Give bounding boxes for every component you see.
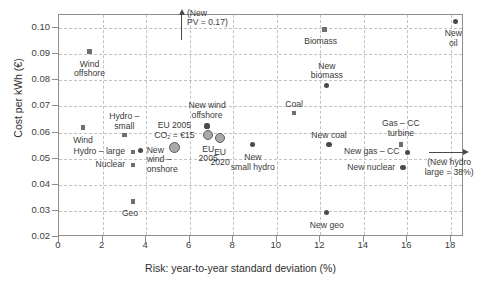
x-axis-title: Risk: year-to-year standard deviation (%… <box>0 262 481 274</box>
gridline-vertical <box>233 15 234 235</box>
data-point-label: Geo <box>85 209 175 219</box>
y-tick-label: 0.03 <box>10 205 50 215</box>
data-point-label: New biomass <box>282 62 372 81</box>
annotation-text: (New hydro large = 38%) <box>411 158 481 177</box>
y-axis-title: Cost per kWh (€) <box>12 18 24 178</box>
x-tick-label: 10 <box>256 240 296 250</box>
data-point <box>138 148 143 153</box>
y-tick-mark <box>52 53 58 54</box>
data-point <box>203 130 213 140</box>
data-point <box>399 142 404 147</box>
annotation-text: (New PV = 0.17) <box>187 9 228 28</box>
y-tick-mark <box>52 79 58 80</box>
data-point-label: Nuclear <box>95 160 125 170</box>
data-point-label: New oil <box>408 29 481 48</box>
data-point <box>131 150 136 155</box>
data-point-label: New wind offshore <box>162 101 252 120</box>
y-tick-mark <box>52 105 58 106</box>
y-tick-label: 0.04 <box>10 179 50 189</box>
gridline-horizontal <box>59 80 462 81</box>
data-point <box>122 133 127 138</box>
data-point-label: New gas – CC <box>344 147 399 157</box>
x-tick-label: 12 <box>299 240 339 250</box>
x-tick-label: 2 <box>82 240 122 250</box>
data-point <box>400 165 405 170</box>
y-tick-mark <box>52 236 58 237</box>
gridline-horizontal <box>59 28 462 29</box>
y-tick-label: 0.02 <box>10 231 50 241</box>
y-tick-mark <box>52 27 58 28</box>
data-point-label: New coal <box>284 131 374 141</box>
gridline-horizontal <box>59 54 462 55</box>
y-tick-mark <box>52 210 58 211</box>
x-tick-label: 16 <box>386 240 426 250</box>
data-point-label: EU 2020 <box>175 148 265 167</box>
gridline-vertical <box>277 15 278 235</box>
plot-area: Wind offshoreWindHydro – smallHydro – la… <box>58 14 463 236</box>
x-tick-label: 8 <box>212 240 252 250</box>
annotation-arrow-right-icon <box>429 152 463 153</box>
data-point <box>87 49 92 54</box>
gridline-vertical <box>320 15 321 235</box>
data-point <box>453 19 458 24</box>
y-tick-mark <box>52 132 58 133</box>
data-point-label: Wind offshore <box>44 60 134 79</box>
data-point <box>215 133 225 143</box>
data-point-label: Hydro – large <box>73 147 125 157</box>
y-tick-mark <box>52 184 58 185</box>
data-point-label: Wind <box>38 136 128 146</box>
data-point <box>324 210 329 215</box>
data-point-label: Coal <box>249 100 339 110</box>
data-point-label: Biomass <box>276 37 366 47</box>
data-point <box>322 27 327 32</box>
data-point <box>131 163 136 168</box>
x-tick-label: 0 <box>38 240 78 250</box>
data-point <box>131 199 136 204</box>
x-tick-label: 4 <box>125 240 165 250</box>
data-point-label: New geo <box>282 221 372 231</box>
data-point <box>326 142 331 147</box>
data-point <box>405 150 410 155</box>
x-tick-label: 14 <box>343 240 383 250</box>
x-tick-label: 18 <box>430 240 470 250</box>
scatter-chart-figure: Wind offshoreWindHydro – smallHydro – la… <box>0 0 481 284</box>
annotation-arrow-up-icon <box>181 14 182 40</box>
gridline-horizontal <box>59 185 462 186</box>
data-point-label: New nuclear <box>347 163 395 173</box>
data-point <box>324 83 329 88</box>
data-point <box>292 111 297 116</box>
y-tick-mark <box>52 158 58 159</box>
x-tick-label: 6 <box>169 240 209 250</box>
